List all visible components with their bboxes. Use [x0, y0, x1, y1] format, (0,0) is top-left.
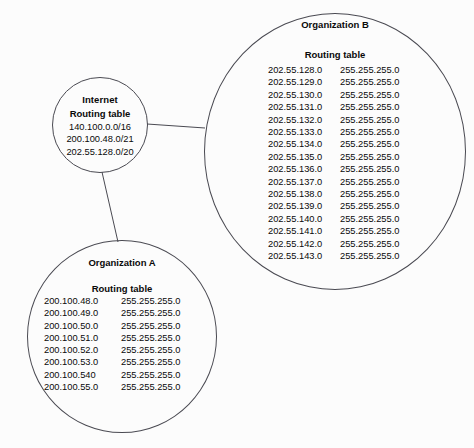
prefix-row: 202.55.128.0/20	[53, 146, 147, 158]
table-row: 202.55.141.0255.255.255.0	[268, 225, 399, 237]
route-mask: 255.255.255.0	[340, 65, 399, 75]
route-network: 202.55.139.0	[268, 200, 340, 212]
route-network: 200.100.50.0	[44, 320, 121, 332]
route-network: 202.55.134.0	[268, 138, 340, 150]
table-row: 202.55.129.0255.255.255.0	[268, 76, 399, 88]
route-network: 202.55.140.0	[268, 213, 340, 225]
table-row: 202.55.138.0255.255.255.0	[268, 188, 399, 200]
node-internet-prefix-list: 140.100.0.0/16 200.100.48.0/21 202.55.12…	[53, 121, 147, 158]
table-row: 202.55.143.0255.255.255.0	[268, 250, 399, 262]
route-mask: 255.255.255.0	[340, 115, 399, 125]
route-mask: 255.255.255.0	[340, 77, 399, 87]
prefix-row: 140.100.0.0/16	[53, 121, 147, 133]
route-network: 202.55.141.0	[268, 225, 340, 237]
table-row: 200.100.53.0255.255.255.0	[44, 356, 180, 368]
route-network: 200.100.53.0	[44, 356, 121, 368]
table-row: 202.55.135.0255.255.255.0	[268, 151, 399, 163]
table-row: 200.100.55.0255.255.255.0	[44, 381, 180, 393]
table-row: 202.55.140.0255.255.255.0	[268, 213, 399, 225]
route-mask: 255.255.255.0	[340, 201, 399, 211]
route-mask: 255.255.255.0	[121, 345, 180, 355]
node-organization-b[interactable]: Organization B Routing table 202.55.128.…	[204, 13, 466, 290]
table-row: 202.55.134.0255.255.255.0	[268, 138, 399, 150]
route-network: 202.55.130.0	[268, 89, 340, 101]
prefix-row: 200.100.48.0/21	[53, 133, 147, 145]
route-mask: 255.255.255.0	[121, 370, 180, 380]
link-internet-to-org-b	[147, 124, 205, 128]
route-network: 202.55.129.0	[268, 76, 340, 88]
table-row: 200.100.540255.255.255.0	[44, 369, 180, 381]
route-network: 200.100.49.0	[44, 307, 121, 319]
route-mask: 255.255.255.0	[121, 296, 180, 306]
route-network: 200.100.540	[44, 369, 121, 381]
table-row: 202.55.142.0255.255.255.0	[268, 238, 399, 250]
route-network: 200.100.52.0	[44, 344, 121, 356]
route-mask: 255.255.255.0	[340, 164, 399, 174]
node-organization-b-title: Organization B	[205, 19, 465, 30]
route-network: 202.55.132.0	[268, 114, 340, 126]
table-row: 200.100.50.0255.255.255.0	[44, 320, 180, 332]
route-mask: 255.255.255.0	[340, 127, 399, 137]
route-mask: 255.255.255.0	[340, 139, 399, 149]
route-network: 202.55.136.0	[268, 163, 340, 175]
route-mask: 255.255.255.0	[340, 214, 399, 224]
route-mask: 255.255.255.0	[121, 308, 180, 318]
route-mask: 255.255.255.0	[340, 251, 399, 261]
routing-table-org-b: 202.55.128.0255.255.255.0 202.55.129.025…	[268, 64, 399, 263]
node-organization-b-table-title: Routing table	[205, 49, 465, 60]
route-mask: 255.255.255.0	[121, 357, 180, 367]
link-internet-to-org-a	[102, 172, 118, 242]
route-network: 202.55.135.0	[268, 151, 340, 163]
table-row: 202.55.132.0255.255.255.0	[268, 114, 399, 126]
route-mask: 255.255.255.0	[340, 239, 399, 249]
route-network: 200.100.51.0	[44, 332, 121, 344]
route-network: 202.55.133.0	[268, 126, 340, 138]
route-network: 200.100.55.0	[44, 381, 121, 393]
route-mask: 255.255.255.0	[340, 90, 399, 100]
route-network: 202.55.138.0	[268, 188, 340, 200]
network-diagram-canvas: Internet Routing table 140.100.0.0/16 20…	[0, 0, 474, 448]
table-row: 202.55.133.0255.255.255.0	[268, 126, 399, 138]
node-internet-title: Internet	[53, 94, 147, 105]
route-mask: 255.255.255.0	[340, 102, 399, 112]
route-network: 202.55.143.0	[268, 250, 340, 262]
route-mask: 255.255.255.0	[121, 382, 180, 392]
table-row: 202.55.130.0255.255.255.0	[268, 89, 399, 101]
route-mask: 255.255.255.0	[340, 189, 399, 199]
table-row: 200.100.51.0255.255.255.0	[44, 332, 180, 344]
route-mask: 255.255.255.0	[340, 177, 399, 187]
table-row: 202.55.128.0255.255.255.0	[268, 64, 399, 76]
route-network: 202.55.128.0	[268, 64, 340, 76]
table-row: 202.55.136.0255.255.255.0	[268, 163, 399, 175]
route-network: 202.55.137.0	[268, 176, 340, 188]
route-mask: 255.255.255.0	[340, 152, 399, 162]
node-organization-a-table-title: Routing table	[28, 283, 216, 294]
table-row: 202.55.131.0255.255.255.0	[268, 101, 399, 113]
node-organization-a-title: Organization A	[28, 257, 216, 268]
route-network: 202.55.131.0	[268, 101, 340, 113]
node-internet[interactable]: Internet Routing table 140.100.0.0/16 20…	[52, 77, 148, 173]
routing-table-org-a: 200.100.48.0255.255.255.0 200.100.49.025…	[44, 295, 180, 393]
route-network: 200.100.48.0	[44, 295, 121, 307]
table-row: 200.100.52.0255.255.255.0	[44, 344, 180, 356]
route-network: 202.55.142.0	[268, 238, 340, 250]
table-row: 200.100.49.0255.255.255.0	[44, 307, 180, 319]
node-internet-table-title: Routing table	[53, 108, 147, 119]
table-row: 200.100.48.0255.255.255.0	[44, 295, 180, 307]
table-row: 202.55.137.0255.255.255.0	[268, 176, 399, 188]
table-row: 202.55.139.0255.255.255.0	[268, 200, 399, 212]
node-organization-a[interactable]: Organization A Routing table 200.100.48.…	[27, 240, 217, 433]
route-mask: 255.255.255.0	[340, 226, 399, 236]
route-mask: 255.255.255.0	[121, 333, 180, 343]
route-mask: 255.255.255.0	[121, 321, 180, 331]
